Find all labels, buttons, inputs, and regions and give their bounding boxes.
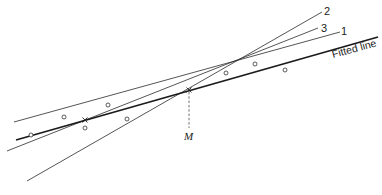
data-point <box>29 133 33 137</box>
data-point <box>224 71 228 75</box>
fitted-line-label: Fitted line <box>330 37 377 60</box>
data-point <box>283 68 287 72</box>
line-3 <box>7 28 318 151</box>
data-point <box>106 103 110 107</box>
line-2 <box>27 12 322 181</box>
line-3-label: 3 <box>321 22 327 34</box>
regression-diagram: 2 3 1 Fitted line M <box>0 0 382 195</box>
line-1 <box>14 32 340 122</box>
mean-point-label: M <box>183 130 194 142</box>
line-2-label: 2 <box>324 5 330 17</box>
data-point <box>83 126 87 130</box>
data-point <box>125 117 129 121</box>
data-point <box>253 62 257 66</box>
line-1-label: 1 <box>341 25 347 37</box>
fitted-line <box>16 37 378 140</box>
data-point <box>62 115 66 119</box>
